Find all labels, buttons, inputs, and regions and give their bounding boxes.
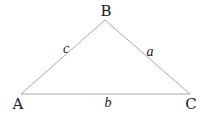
side-c-line bbox=[21, 20, 105, 94]
triangle bbox=[21, 20, 190, 94]
side-label-a: a bbox=[147, 44, 154, 59]
side-label-c: c bbox=[63, 41, 70, 56]
side-label-b: b bbox=[105, 95, 112, 110]
vertex-label-a: A bbox=[12, 95, 24, 113]
vertex-label-c: C bbox=[185, 95, 196, 113]
triangle-diagram: B A C c a b bbox=[0, 0, 205, 114]
vertex-label-b: B bbox=[100, 2, 111, 20]
